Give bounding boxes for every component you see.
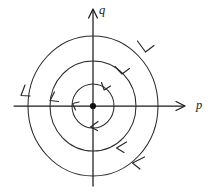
flow-arrowheads-group xyxy=(21,41,154,169)
flow-arrow-middle-lower-right xyxy=(117,142,127,153)
q-axis-label: q xyxy=(99,3,105,17)
flow-arrow-outer-lower-right xyxy=(133,157,145,169)
flow-arrow-inner-upper-right xyxy=(102,83,111,91)
p-axis-label: p xyxy=(195,98,202,112)
flow-arrow-inner-bottom xyxy=(91,122,99,131)
axes-group xyxy=(14,9,185,186)
flow-arrow-outer-upper-right xyxy=(138,41,155,52)
phase-portrait-canvas: q p xyxy=(0,0,213,196)
phase-portrait-figure: q p xyxy=(0,0,213,196)
equilibrium-point xyxy=(90,103,96,109)
